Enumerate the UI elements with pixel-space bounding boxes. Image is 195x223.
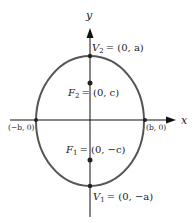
vertex-v2-point (88, 54, 92, 58)
f1-label: F1= (0, −c) (65, 144, 126, 157)
v2-label: V2= (0, a) (92, 42, 144, 55)
focus-f1-point (88, 158, 93, 163)
v1-label: V1= (0, −a) (93, 191, 153, 204)
x-axis-label: x (181, 114, 188, 127)
y-axis-label: y (85, 9, 93, 22)
ellipse-diagram: y x V2= (0, a) F2= (0, c) F1= (0, −c) V1… (0, 0, 195, 223)
vertex-v1-point (88, 184, 92, 188)
y-axis-arrow-icon (87, 28, 94, 38)
f2-label: F2= (0, c) (67, 87, 119, 100)
covertex-right-point (143, 118, 147, 122)
covertex-left-point (34, 118, 38, 122)
x-axis-arrow-icon (166, 117, 176, 124)
left-covertex-label: (−b, 0) (8, 123, 35, 132)
focus-f2-point (88, 81, 93, 86)
right-covertex-label: (b, 0) (146, 123, 166, 132)
